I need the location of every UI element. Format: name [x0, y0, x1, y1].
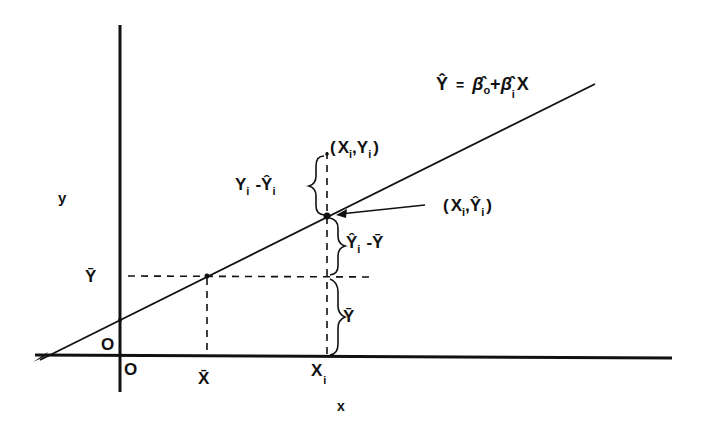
observed-point-label: (Xi,Yi) [330, 138, 379, 160]
fitted-point [324, 213, 331, 220]
xbar-label: X̄ [198, 369, 210, 388]
x-origin-label: O [124, 360, 137, 379]
intercept-point [118, 318, 122, 322]
explained-label: Ŷi-Ȳ [346, 233, 384, 255]
explained-brace [330, 218, 345, 275]
observed-point [325, 152, 329, 156]
fitted-pointer-line [340, 205, 425, 214]
x-axis [35, 355, 672, 358]
mean-point [205, 274, 210, 279]
regression-diagram: y x O O X̄ Xi Ȳ Ŷ=β̂o+β̂iX (Xi,Yi) (Xi,Ŷ… [0, 0, 703, 431]
mean-label: Ȳ [343, 307, 355, 326]
fitted-point-label: (Xi,Ŷi) [443, 196, 492, 218]
ybar-label: Ȳ [85, 267, 97, 286]
regression-equation: Ŷ=β̂o+β̂iX [436, 73, 529, 100]
y-origin-label: O [101, 335, 114, 354]
residual-brace [309, 156, 324, 215]
residual-label: Yi-Ŷi [235, 175, 275, 197]
ybar-dashed-line [128, 276, 375, 277]
xi-label: Xi [311, 361, 326, 386]
regression-line [40, 84, 595, 360]
y-axis-label: y [58, 189, 67, 206]
x-axis-label: x [337, 398, 345, 414]
